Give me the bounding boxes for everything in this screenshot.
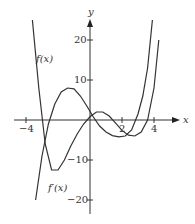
x-tick-label: −4 bbox=[19, 123, 34, 134]
y-tick-label: 10 bbox=[74, 74, 87, 85]
y-tick-label: −20 bbox=[67, 194, 88, 205]
y-tick-label: 20 bbox=[74, 34, 87, 45]
f-label: f(x) bbox=[35, 53, 53, 64]
chart: xy−4242010−10−20f(x)f′(x) bbox=[0, 0, 195, 224]
f-curve bbox=[32, 20, 158, 170]
fprime-label: f′(x) bbox=[47, 182, 68, 193]
x-tick-label: 4 bbox=[151, 123, 157, 134]
fprime-curve bbox=[36, 20, 153, 200]
y-tick-label: −10 bbox=[67, 154, 88, 165]
plot-area: xy−4242010−10−20f(x)f′(x) bbox=[0, 0, 195, 224]
x-axis-arrow-icon bbox=[172, 117, 180, 123]
y-axis-arrow-icon bbox=[87, 19, 93, 27]
y-axis-label: y bbox=[87, 6, 94, 17]
x-axis-label: x bbox=[183, 114, 189, 125]
